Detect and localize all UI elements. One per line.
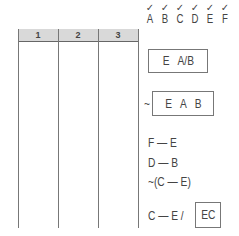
variable-d: D (190, 12, 200, 26)
negation-tilde: ~ (144, 97, 150, 111)
rule-not-c-e: ~(C — E) (148, 175, 191, 189)
rule-d-b: D — B (148, 156, 178, 170)
rule-f-e: F — E (148, 136, 177, 150)
column-header-2: 2 (58, 29, 98, 41)
rule-c-e: C — E / (148, 209, 184, 223)
rule-box-e-ab: E A/B (148, 49, 208, 73)
column-divider (98, 29, 99, 228)
column-divider (58, 29, 59, 228)
rule-box-ec: EC (195, 202, 221, 228)
rule-box-e-a-b-text: E A B (165, 97, 201, 111)
rule-box-ec-text: EC (201, 208, 215, 222)
column-header-3: 3 (98, 29, 138, 41)
column-divider (138, 29, 139, 228)
variable-f: F (220, 12, 230, 26)
variable-b: B (160, 12, 170, 26)
column-divider (18, 29, 19, 228)
variable-e: E (205, 12, 215, 26)
rule-box-e-a-b: E A B (152, 91, 214, 116)
rule-box-e-ab-text: E A/B (162, 54, 193, 68)
variable-a: A (145, 12, 155, 26)
variable-c: C (175, 12, 185, 26)
column-header-1: 1 (18, 29, 58, 41)
